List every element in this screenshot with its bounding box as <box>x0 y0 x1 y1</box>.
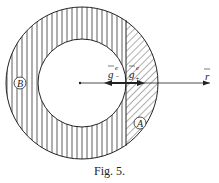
g-plus-sup: e <box>136 64 139 72</box>
g-minus-label: g <box>108 68 114 80</box>
r-label: r <box>205 70 210 82</box>
shell-diagram: B A g e − g e + r <box>0 0 219 183</box>
figure-caption: Fig. 5. <box>0 164 219 179</box>
region-b-hatching <box>0 0 126 183</box>
g-minus-sub: − <box>115 73 120 81</box>
region-a-label: A <box>136 118 144 129</box>
g-plus-sub: + <box>135 75 140 83</box>
center-dot <box>79 82 81 84</box>
region-b-label: B <box>17 78 23 89</box>
region-a-hatching <box>126 0 219 183</box>
g-minus-sup: e <box>115 64 118 72</box>
